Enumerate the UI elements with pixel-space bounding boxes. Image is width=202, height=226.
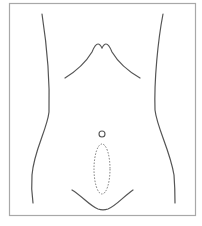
abdomen-diagram (0, 0, 202, 226)
frame-border (10, 4, 196, 216)
